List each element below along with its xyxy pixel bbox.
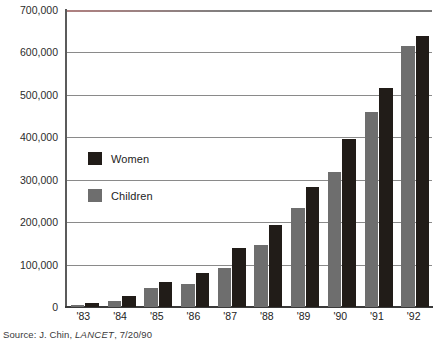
source-suffix: , 7/20/90 <box>114 329 152 340</box>
bar-women <box>342 139 356 307</box>
bar-group <box>291 10 319 307</box>
bar-women <box>416 36 430 308</box>
bar-children <box>181 284 195 307</box>
y-tick-label-400000: 400,000 <box>0 131 58 143</box>
y-tick-label-300000: 300,000 <box>0 174 58 186</box>
bar-group <box>181 10 209 307</box>
bar-children <box>108 301 122 307</box>
bar-group <box>218 10 246 307</box>
legend-swatch-children-icon <box>88 189 102 202</box>
bar-women <box>85 303 99 307</box>
bar-children <box>71 305 85 307</box>
x-tick-label-86: '86 <box>175 310 212 322</box>
x-tick-label-84: '84 <box>102 310 139 322</box>
legend-label-children: Children <box>111 190 153 202</box>
source-caption: Source: J. Chin, LANCET, 7/20/90 <box>3 329 152 340</box>
bar-women <box>379 88 393 307</box>
bar-group <box>365 10 393 307</box>
y-tick-label-0: 0 <box>0 301 58 313</box>
x-tick-label-92: '92 <box>395 310 432 322</box>
x-tick-label-85: '85 <box>138 310 175 322</box>
bar-women <box>122 296 136 307</box>
bar-women <box>196 273 210 307</box>
y-tick-label-100000: 100,000 <box>0 259 58 271</box>
bar-children <box>328 172 342 307</box>
y-tick-label-700000: 700,000 <box>0 4 58 16</box>
legend-item-children: Children <box>88 189 153 202</box>
bar-women <box>159 282 173 307</box>
bar-women <box>269 225 283 307</box>
x-tick-label-90: '90 <box>322 310 359 322</box>
source-prefix: Source: J. Chin, <box>3 329 75 340</box>
x-axis-tick-labels: '83'84'85'86'87'88'89'90'91'92 <box>65 310 432 328</box>
y-tick-label-500000: 500,000 <box>0 89 58 101</box>
legend-swatch-women-icon <box>88 152 102 165</box>
bar-group <box>254 10 282 307</box>
legend-label-women: Women <box>111 153 149 165</box>
x-tick-label-91: '91 <box>359 310 396 322</box>
bar-group <box>328 10 356 307</box>
bar-children <box>144 288 158 307</box>
source-publication: LANCET <box>75 329 114 340</box>
chart-legend: Women Children <box>88 152 153 226</box>
y-tick-label-600000: 600,000 <box>0 46 58 58</box>
bar-women <box>306 187 320 307</box>
bar-children <box>254 245 268 307</box>
x-tick-label-83: '83 <box>65 310 102 322</box>
legend-item-women: Women <box>88 152 153 165</box>
bar-children <box>218 268 232 307</box>
bar-chart-figure: 0100,000200,000300,000400,000500,000600,… <box>0 0 439 348</box>
bar-group <box>401 10 429 307</box>
bar-children <box>401 46 415 307</box>
bar-women <box>232 248 246 307</box>
y-tick-label-200000: 200,000 <box>0 216 58 228</box>
bar-children <box>365 112 379 307</box>
x-tick-label-89: '89 <box>285 310 322 322</box>
x-tick-label-87: '87 <box>212 310 249 322</box>
bar-children <box>291 208 305 307</box>
x-tick-label-88: '88 <box>249 310 286 322</box>
